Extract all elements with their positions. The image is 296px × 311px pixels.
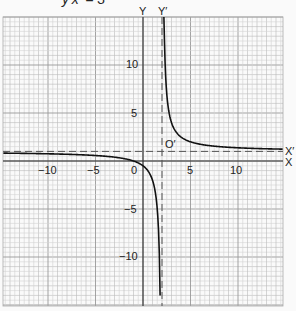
y-tick-neg10: −10 xyxy=(119,250,138,262)
x-tick-5: 5 xyxy=(187,164,193,176)
x-tick-neg5: −5 xyxy=(87,164,100,176)
hyperbola-right-branch xyxy=(164,17,283,149)
x-axis-label: X xyxy=(285,156,293,168)
y-tick-5: 5 xyxy=(131,107,137,119)
x-tick-10: 10 xyxy=(230,164,242,176)
y-tick-neg5: −5 xyxy=(124,203,137,215)
origin-prime-label: O′ xyxy=(165,138,176,150)
y-tick-10: 10 xyxy=(126,58,138,70)
origin-label: 0 xyxy=(131,164,137,176)
y-prime-axis-label: Y′ xyxy=(158,5,167,17)
y-axis-label: Y xyxy=(139,5,147,17)
x-tick-neg10: −10 xyxy=(38,164,57,176)
hyperbola-plot: Y Y′ X′ X O′ 0 −10 −5 5 10 10 5 −5 −10 xyxy=(0,0,296,311)
